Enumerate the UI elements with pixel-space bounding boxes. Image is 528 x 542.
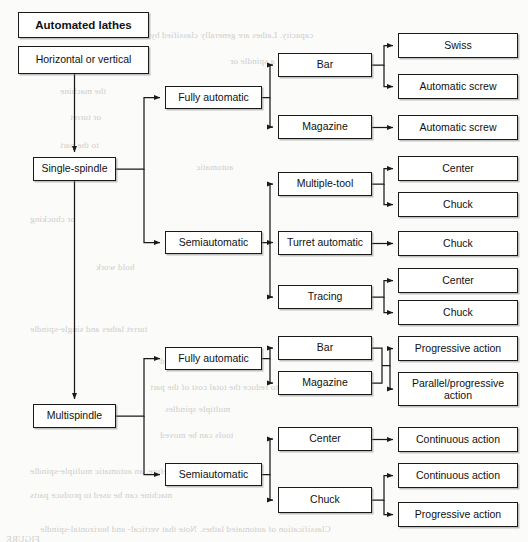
- node-label: Continuous action: [416, 434, 500, 446]
- edge-multi-fully: [116, 359, 160, 417]
- node-l_cont1[interactable]: Continuous action: [398, 427, 518, 452]
- node-label: Automatic screw: [419, 81, 496, 93]
- node-l_prog2[interactable]: Progressive action: [398, 502, 518, 527]
- edge-single-fully: [116, 98, 160, 170]
- node-multi[interactable]: Multispindle: [33, 404, 116, 428]
- node-label: Multispindle: [47, 410, 102, 422]
- node-l_prog1[interactable]: Progressive action: [398, 336, 518, 361]
- node-root[interactable]: Automated lathes: [18, 12, 149, 38]
- node-label: Chuck: [443, 238, 473, 250]
- node-label: Swiss: [444, 40, 471, 52]
- node-label: Chuck: [310, 494, 340, 506]
- node-mf_bar[interactable]: Bar: [278, 336, 372, 360]
- node-ms_chuck[interactable]: Chuck: [278, 487, 372, 513]
- node-label: Center: [442, 163, 474, 175]
- node-l_chuck1[interactable]: Chuck: [398, 192, 518, 217]
- node-label: Progressive action: [415, 343, 501, 355]
- edge-bus-progressive: [382, 349, 393, 366]
- edge-tracing-chuck: [384, 297, 393, 313]
- edge-bus-parallelprogressive: [390, 366, 393, 390]
- node-l_chuck3[interactable]: Chuck: [398, 300, 518, 325]
- edge-msemi-center: [262, 439, 273, 475]
- node-ss_turret[interactable]: Turret automatic: [278, 231, 372, 255]
- node-s_full[interactable]: Fully automatic: [165, 86, 262, 109]
- edge-mchuck-continuous: [372, 476, 393, 501]
- node-label: Continuous action: [416, 470, 500, 482]
- flowchart-diagram: capacity. Lathes are generally classifie…: [0, 0, 528, 542]
- edge-bar-swiss: [372, 46, 393, 66]
- node-label: Horizontal or vertical: [36, 54, 132, 66]
- node-l_chuck2[interactable]: Chuck: [398, 231, 518, 256]
- node-l_ascrew2[interactable]: Automatic screw: [398, 115, 518, 140]
- node-label: Bar: [317, 59, 333, 71]
- edge-mfull-magazine: [270, 359, 273, 384]
- node-ss_tracing[interactable]: Tracing: [278, 285, 372, 309]
- edge-mchuck-progressive: [384, 500, 393, 515]
- node-label: Chuck: [443, 199, 473, 211]
- node-label: Center: [442, 275, 474, 287]
- edge-bus-mf: [372, 348, 382, 383]
- node-label: Semiautomatic: [179, 237, 248, 249]
- node-l_center1[interactable]: Center: [398, 156, 518, 181]
- node-label: Semiautomatic: [179, 469, 248, 481]
- node-ss_mtool[interactable]: Multiple-tool: [278, 172, 372, 196]
- edge-sfull-bar: [262, 65, 273, 98]
- edge-ssemi-multipletool: [262, 184, 273, 243]
- edge-multi-semi: [144, 416, 160, 475]
- node-label: Turret automatic: [287, 237, 363, 249]
- node-sf_mag[interactable]: Magazine: [278, 115, 372, 139]
- node-m_full[interactable]: Fully automatic: [165, 347, 262, 370]
- edge-single-semi: [144, 169, 160, 243]
- edge-msemi-chuck: [270, 475, 273, 501]
- edge-sfull-magazine: [270, 98, 273, 128]
- edge-multipletool-center: [372, 169, 393, 185]
- node-label: Multiple-tool: [297, 178, 354, 190]
- edge-tracing-center: [372, 281, 393, 298]
- node-label: Magazine: [302, 377, 348, 389]
- node-label: Tracing: [308, 291, 343, 303]
- node-label: Parallel/progressive action: [402, 377, 514, 402]
- node-sf_bar[interactable]: Bar: [278, 53, 372, 77]
- node-single[interactable]: Single-spindle: [33, 157, 116, 181]
- edge-ssemi-tracing: [270, 243, 273, 298]
- node-mf_mag[interactable]: Magazine: [278, 371, 372, 395]
- node-label: Fully automatic: [178, 353, 249, 365]
- node-label: Fully automatic: [178, 92, 249, 104]
- node-orient[interactable]: Horizontal or vertical: [18, 46, 149, 74]
- edge-bar-autoscrew: [384, 65, 393, 87]
- node-label: Center: [309, 433, 341, 445]
- node-label: Automatic screw: [419, 122, 496, 134]
- node-label: Automated lathes: [35, 19, 132, 32]
- node-label: Bar: [317, 342, 333, 354]
- node-l_parprog[interactable]: Parallel/progressive action: [398, 372, 518, 406]
- node-l_cont2[interactable]: Continuous action: [398, 463, 518, 488]
- node-l_center2[interactable]: Center: [398, 268, 518, 293]
- node-label: Progressive action: [415, 509, 501, 521]
- node-m_semi[interactable]: Semiautomatic: [165, 463, 262, 486]
- node-label: Chuck: [443, 307, 473, 319]
- edge-mfull-bar: [262, 348, 273, 359]
- node-ms_center[interactable]: Center: [278, 427, 372, 451]
- node-label: Magazine: [302, 121, 348, 133]
- node-l_swiss[interactable]: Swiss: [398, 33, 518, 58]
- node-s_semi[interactable]: Semiautomatic: [165, 231, 262, 254]
- node-label: Single-spindle: [42, 163, 108, 175]
- edge-multipletool-chuck: [384, 184, 393, 205]
- node-l_ascrew1[interactable]: Automatic screw: [398, 74, 518, 99]
